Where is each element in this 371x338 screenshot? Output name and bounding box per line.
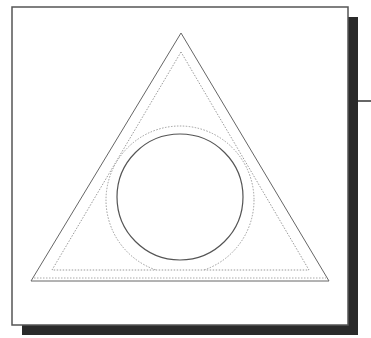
diagram-canvas xyxy=(0,0,371,338)
solid-circle xyxy=(117,134,243,260)
diagram-svg xyxy=(0,0,371,338)
